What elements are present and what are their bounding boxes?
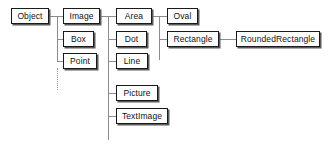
class-node-picture[interactable]: Picture [116, 85, 158, 101]
connector-image-trunk [108, 16, 109, 140]
class-node-label: Box [71, 35, 86, 44]
class-diagram-canvas: ObjectImageBoxPointAreaDotLinePictureTex… [0, 0, 333, 148]
class-node-label: Object [17, 12, 42, 21]
class-node-oval[interactable]: Oval [167, 8, 198, 24]
class-node-image[interactable]: Image [63, 8, 100, 24]
class-node-label: Oval [174, 12, 192, 21]
class-node-label: TextImage [122, 112, 162, 121]
class-node-label: Image [69, 12, 93, 21]
class-node-label: Dot [125, 35, 139, 44]
class-node-label: Point [70, 57, 90, 66]
connector-rect-to-rounded [219, 39, 237, 40]
class-node-dot[interactable]: Dot [116, 31, 147, 47]
class-node-label: Line [124, 57, 140, 66]
connector-object-trunk-dash [57, 68, 59, 90]
class-node-line[interactable]: Line [116, 53, 148, 69]
class-node-roundedrectangle[interactable]: RoundedRectangle [236, 31, 320, 47]
class-node-point[interactable]: Point [63, 53, 97, 69]
class-node-label: Area [125, 12, 143, 21]
class-node-textimage[interactable]: TextImage [116, 108, 168, 124]
class-node-label: Rectangle [173, 35, 212, 44]
connector-area-trunk [159, 16, 160, 60]
class-node-object[interactable]: Object [11, 8, 49, 24]
class-node-rectangle[interactable]: Rectangle [167, 31, 219, 47]
class-node-area[interactable]: Area [116, 8, 152, 24]
class-node-label: RoundedRectangle [241, 35, 315, 44]
class-node-label: Picture [123, 89, 150, 98]
class-node-box[interactable]: Box [63, 31, 94, 47]
